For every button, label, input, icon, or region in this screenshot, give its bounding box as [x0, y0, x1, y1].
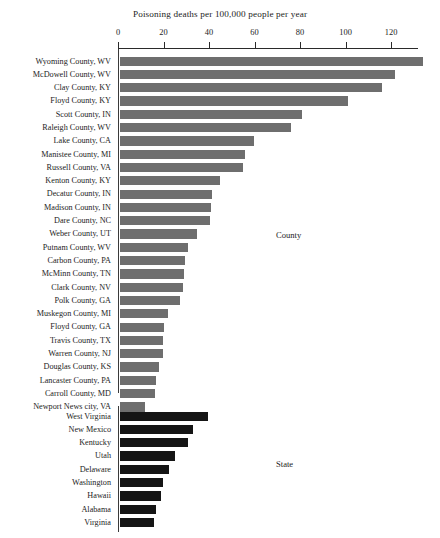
bar-row: Muskegon County, MI	[0, 308, 440, 321]
bar	[120, 323, 164, 332]
x-axis-tick	[391, 42, 392, 48]
bar	[120, 505, 156, 514]
bar-category-label: Decatur County, IN	[47, 188, 111, 199]
bar	[120, 451, 175, 460]
bar	[120, 57, 423, 66]
bar	[120, 491, 161, 500]
x-axis: 020406080100120	[118, 28, 418, 50]
x-axis-line	[118, 48, 418, 49]
bar-row: Russell County, VA	[0, 161, 440, 174]
bar-category-label: Scott County, IN	[56, 109, 111, 120]
state-group-annotation: State	[276, 459, 293, 469]
bar-row: Warren County, NJ	[0, 348, 440, 361]
bar-row: Delaware	[0, 463, 440, 476]
x-axis-tick-label: 40	[205, 28, 213, 37]
bar-row: Floyd County, GA	[0, 321, 440, 334]
x-axis-tick	[118, 42, 119, 48]
bar	[120, 465, 169, 474]
bar-category-label: Polk County, GA	[54, 295, 111, 306]
bar-row: Polk County, GA	[0, 294, 440, 307]
bar-category-label: West Virginia	[66, 411, 111, 422]
bar	[120, 163, 243, 172]
county-group-annotation: County	[276, 230, 301, 240]
bar	[120, 349, 163, 358]
bar-row: Wyoming County, WV	[0, 55, 440, 68]
bar-category-label: Russell County, VA	[47, 162, 111, 173]
x-axis-tick	[209, 42, 210, 48]
bar	[120, 518, 154, 527]
bar-row: Virginia	[0, 516, 440, 529]
bar-row: Raleigh County, WV	[0, 121, 440, 134]
bar	[120, 256, 185, 265]
bar-row: Lake County, CA	[0, 135, 440, 148]
bar-category-label: Floyd County, KY	[50, 95, 111, 106]
bar-row: Alabama	[0, 503, 440, 516]
bar	[120, 376, 156, 385]
bar-category-label: Kenton County, KY	[45, 175, 111, 186]
x-axis-tick	[346, 42, 347, 48]
bar-category-label: McMinn County, TN	[42, 268, 111, 279]
bar-category-label: Carroll County, MD	[45, 388, 111, 399]
x-axis-tick	[300, 42, 301, 48]
bar	[120, 412, 208, 421]
bar-row: Washington	[0, 476, 440, 489]
state-panel: West VirginiaNew MexicoKentuckyUtahDelaw…	[0, 410, 440, 530]
bar-category-label: Lancaster County, PA	[40, 375, 111, 386]
bar-row: Douglas County, KS	[0, 361, 440, 374]
county-panel: Wyoming County, WVMcDowell County, WVCla…	[0, 55, 440, 414]
bar-row: Manistee County, MI	[0, 148, 440, 161]
bar	[120, 336, 163, 345]
bar-category-label: Delaware	[80, 464, 111, 475]
bar-category-label: New Mexico	[68, 424, 111, 435]
bar-category-label: Madison County, IN	[44, 202, 111, 213]
bar-category-label: Hawaii	[87, 490, 111, 501]
bar	[120, 389, 155, 398]
bar-row: McDowell County, WV	[0, 68, 440, 81]
bar	[120, 229, 197, 238]
bar	[120, 83, 382, 92]
bar-category-label: Washington	[72, 477, 111, 488]
bar	[120, 438, 188, 447]
bar-category-label: Lake County, CA	[54, 135, 111, 146]
bar-category-label: Muskegon County, MI	[37, 308, 111, 319]
bar	[120, 478, 163, 487]
bar-category-label: Floyd County, GA	[50, 321, 111, 332]
bar-row: Floyd County, KY	[0, 95, 440, 108]
x-axis-tick-label: 60	[250, 28, 258, 37]
bar-category-label: Virginia	[84, 517, 111, 528]
bar-row: West Virginia	[0, 410, 440, 423]
x-axis-tick	[255, 42, 256, 48]
x-axis-tick	[164, 42, 165, 48]
bar-category-label: Warren County, NJ	[48, 348, 111, 359]
bar-row: Hawaii	[0, 490, 440, 503]
bar-category-label: Utah	[95, 450, 111, 461]
bar-category-label: Clark County, NV	[51, 282, 111, 293]
x-axis-tick-label: 0	[116, 28, 120, 37]
bar	[120, 362, 159, 371]
bar	[120, 309, 168, 318]
bar	[120, 269, 184, 278]
bar-category-label: Raleigh County, WV	[42, 122, 111, 133]
bar-row: Scott County, IN	[0, 108, 440, 121]
bar-category-label: Manistee County, MI	[41, 149, 111, 160]
bar	[120, 243, 188, 252]
bar-category-label: Douglas County, KS	[44, 361, 111, 372]
bar-row: Madison County, IN	[0, 201, 440, 214]
bar	[120, 96, 348, 105]
bar	[120, 136, 254, 145]
bar-row: Clark County, NV	[0, 281, 440, 294]
bar-row: Putnam County, WV	[0, 241, 440, 254]
bar-row: Kenton County, KY	[0, 175, 440, 188]
bar-category-label: Clay County, KY	[54, 82, 111, 93]
bar	[120, 70, 395, 79]
bar	[120, 150, 245, 159]
poisoning-deaths-bar-chart: Poisoning deaths per 100,000 people per …	[0, 0, 440, 538]
bar-category-label: McDowell County, WV	[33, 69, 111, 80]
bar-row: Decatur County, IN	[0, 188, 440, 201]
bar	[120, 110, 302, 119]
bar-row: New Mexico	[0, 423, 440, 436]
bar	[120, 283, 183, 292]
x-axis-tick-label: 120	[385, 28, 398, 37]
chart-title: Poisoning deaths per 100,000 people per …	[0, 9, 440, 19]
bar	[120, 176, 220, 185]
